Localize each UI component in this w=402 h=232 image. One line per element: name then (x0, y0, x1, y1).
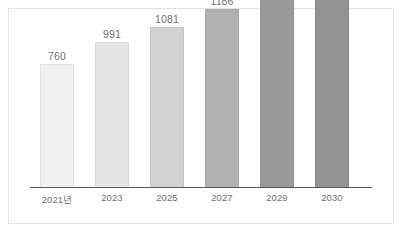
bars-layer: 760 991 1081 1186 1298 1430 (30, 18, 372, 188)
bar-chart: 760 991 1081 1186 1298 1430 (0, 0, 402, 232)
x-axis-tick-label: 2021년 (33, 192, 81, 206)
bar-group: 1298 (253, 18, 301, 188)
bar-group: 1430 (308, 18, 356, 188)
bar-value-label: 1081 (143, 13, 191, 25)
bar-rect[interactable] (315, 0, 349, 188)
bar-group: 991 (88, 18, 136, 188)
x-axis-baseline (30, 187, 372, 188)
bar-group: 760 (33, 18, 81, 188)
x-axis-tick-label: 2023 (88, 192, 136, 203)
bar-group: 1186 (198, 18, 246, 188)
bar-value-label: 760 (33, 50, 81, 62)
x-axis-tick-label: 2027 (198, 192, 246, 203)
bar-group: 1081 (143, 18, 191, 188)
bar-value-label: 1186 (198, 0, 246, 7)
bar-rect[interactable] (95, 42, 129, 188)
x-axis-tick-label: 2029 (253, 192, 301, 203)
x-axis-tick-label: 2030 (308, 192, 356, 203)
bar-rect[interactable] (40, 64, 74, 188)
bar-rect[interactable] (260, 0, 294, 188)
x-axis-tick-label: 2025 (143, 192, 191, 203)
bar-value-label: 991 (88, 28, 136, 40)
plot-area: 760 991 1081 1186 1298 1430 (30, 18, 372, 188)
bar-rect[interactable] (205, 9, 239, 188)
x-axis-labels: 2021년 2023 2025 2027 2029 2030 (30, 192, 372, 212)
bar-rect[interactable] (150, 27, 184, 188)
